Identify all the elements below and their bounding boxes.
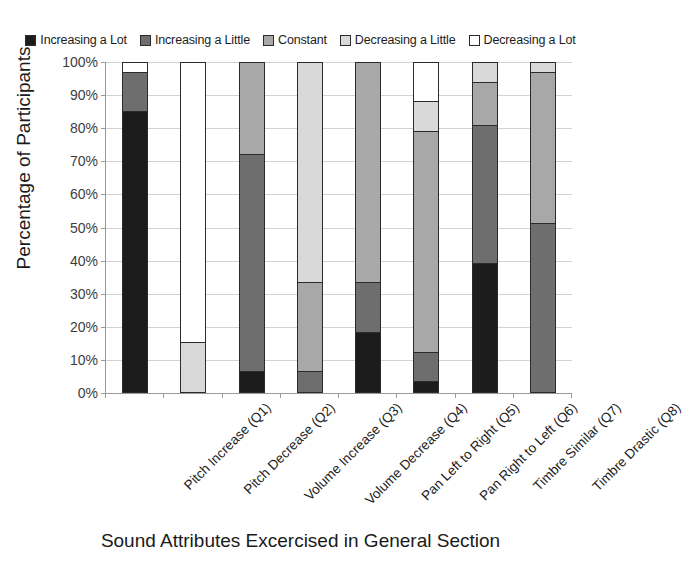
y-axis-tick-label: 0% bbox=[40, 386, 98, 400]
bar-segment[interactable] bbox=[531, 224, 555, 392]
bar-segment[interactable] bbox=[356, 333, 380, 392]
legend-item: Increasing a Lot bbox=[25, 34, 127, 47]
stacked-bar[interactable] bbox=[472, 62, 498, 393]
bar-segment[interactable] bbox=[240, 372, 264, 392]
x-axis-tick-label: Pan Left to Right (Q5) bbox=[418, 400, 521, 503]
chart-legend: Increasing a LotIncreasing a LittleConst… bbox=[0, 28, 601, 52]
bar-segment[interactable] bbox=[356, 283, 380, 332]
y-axis-tick-label: 20% bbox=[40, 320, 98, 334]
y-axis-tick-label: 60% bbox=[40, 187, 98, 201]
y-axis-tick-label: 50% bbox=[40, 221, 98, 235]
x-axis-tick-mark bbox=[571, 393, 572, 398]
legend-item: Decreasing a Little bbox=[340, 34, 456, 47]
bar-segment[interactable] bbox=[240, 155, 264, 372]
bar-segment[interactable] bbox=[298, 283, 322, 372]
bar-column bbox=[106, 62, 164, 393]
bar-segment[interactable] bbox=[531, 63, 555, 73]
bar-segment[interactable] bbox=[181, 63, 205, 343]
bar-segment[interactable] bbox=[298, 63, 322, 283]
bar-segment[interactable] bbox=[414, 353, 438, 383]
bar-segment[interactable] bbox=[473, 63, 497, 83]
y-axis-tick-label: 70% bbox=[40, 154, 98, 168]
legend-item-label: Decreasing a Little bbox=[355, 34, 456, 47]
legend-item: Constant bbox=[263, 34, 327, 47]
bar-column bbox=[397, 62, 455, 393]
bar-segment[interactable] bbox=[414, 382, 438, 392]
legend-swatch-icon bbox=[469, 35, 480, 46]
y-axis-tick-label: 30% bbox=[40, 287, 98, 301]
stacked-bar[interactable] bbox=[180, 62, 206, 393]
bar-segment[interactable] bbox=[473, 83, 497, 126]
bar-segment[interactable] bbox=[356, 63, 380, 283]
x-axis-title: Sound Attributes Excercised in General S… bbox=[0, 530, 601, 552]
y-axis-tick-label: 90% bbox=[40, 88, 98, 102]
legend-swatch-icon bbox=[340, 35, 351, 46]
bars-layer bbox=[106, 62, 572, 393]
bar-column bbox=[456, 62, 514, 393]
legend-item-label: Increasing a Lot bbox=[40, 34, 127, 47]
x-axis-tick-labels: Pitch Increase (Q1)Pitch Decrease (Q2)Vo… bbox=[105, 396, 571, 506]
y-axis-tick-label: 80% bbox=[40, 121, 98, 135]
stacked-bar[interactable] bbox=[239, 62, 265, 393]
stacked-bar[interactable] bbox=[355, 62, 381, 393]
bar-segment[interactable] bbox=[414, 102, 438, 132]
y-axis-tick-label: 40% bbox=[40, 254, 98, 268]
legend-item-label: Constant bbox=[278, 34, 327, 47]
legend-item-label: Decreasing a Lot bbox=[484, 34, 576, 47]
legend-item: Increasing a Little bbox=[140, 34, 250, 47]
y-axis-tick-label: 10% bbox=[40, 353, 98, 367]
legend-item: Decreasing a Lot bbox=[469, 34, 576, 47]
bar-segment[interactable] bbox=[531, 73, 555, 224]
y-axis-tick-label: 100% bbox=[40, 55, 98, 69]
bar-segment[interactable] bbox=[473, 126, 497, 264]
bar-segment[interactable] bbox=[473, 264, 497, 392]
bar-segment[interactable] bbox=[298, 372, 322, 392]
legend-swatch-icon bbox=[140, 35, 151, 46]
y-axis-title: Percentage of Participants bbox=[13, 3, 35, 313]
bar-column bbox=[223, 62, 281, 393]
bar-column bbox=[514, 62, 572, 393]
stacked-bar[interactable] bbox=[297, 62, 323, 393]
y-axis-tick-labels: 0%10%20%30%40%50%60%70%80%90%100% bbox=[40, 62, 98, 393]
bar-segment[interactable] bbox=[123, 63, 147, 73]
plot-area bbox=[105, 62, 572, 394]
bar-segment[interactable] bbox=[123, 112, 147, 392]
stacked-bar[interactable] bbox=[122, 62, 148, 393]
legend-swatch-icon bbox=[263, 35, 274, 46]
bar-segment[interactable] bbox=[240, 63, 264, 155]
bar-segment[interactable] bbox=[414, 63, 438, 102]
bar-column bbox=[281, 62, 339, 393]
bar-column bbox=[339, 62, 397, 393]
bar-column bbox=[164, 62, 222, 393]
bar-segment[interactable] bbox=[123, 73, 147, 112]
stacked-bar[interactable] bbox=[530, 62, 556, 393]
bar-segment[interactable] bbox=[181, 343, 205, 392]
legend-item-label: Increasing a Little bbox=[155, 34, 250, 47]
bar-segment[interactable] bbox=[414, 132, 438, 352]
stacked-bar[interactable] bbox=[413, 62, 439, 393]
